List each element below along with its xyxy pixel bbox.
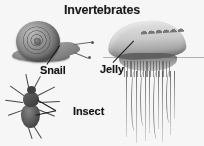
invertebrates-figure: Invertebrates (0, 0, 204, 146)
jellyfish-tentacle (170, 71, 171, 135)
jellyfish-tentacle (162, 71, 163, 142)
jellyfish-tentacle (158, 71, 159, 129)
jellyfish-tentacle (145, 71, 146, 141)
jellyfish-tentacle (136, 71, 137, 143)
label-snail: Snail (40, 64, 66, 76)
jellyfish-tentacle (174, 71, 175, 119)
jellyfish-illustration (104, 19, 202, 144)
figure-title: Invertebrates (0, 3, 204, 17)
snail-shell-apex (34, 38, 41, 45)
snail-tentacle-upper (74, 42, 92, 45)
snail-tentacle-lower (74, 52, 88, 59)
insect-illustration (4, 78, 66, 144)
snail-eye-lower (88, 56, 91, 59)
insect-leg-rear-right (33, 126, 41, 139)
insect-leg-mid-left (5, 100, 23, 104)
snail-illustration (6, 20, 90, 66)
label-jelly: Jelly (100, 63, 124, 75)
snail-eye-upper (91, 41, 94, 44)
insect-head (27, 86, 36, 94)
insect-leg-front-right (38, 86, 55, 96)
label-insect: Insect (73, 105, 104, 117)
insect-leg-rear-left (27, 126, 32, 139)
jellyfish-tentacle (149, 71, 150, 133)
jellyfish-tentacle (126, 71, 127, 137)
insect-leg-front-left (10, 85, 25, 96)
insect-abdomen (21, 104, 40, 128)
jellyfish-oral-arms (124, 61, 172, 77)
